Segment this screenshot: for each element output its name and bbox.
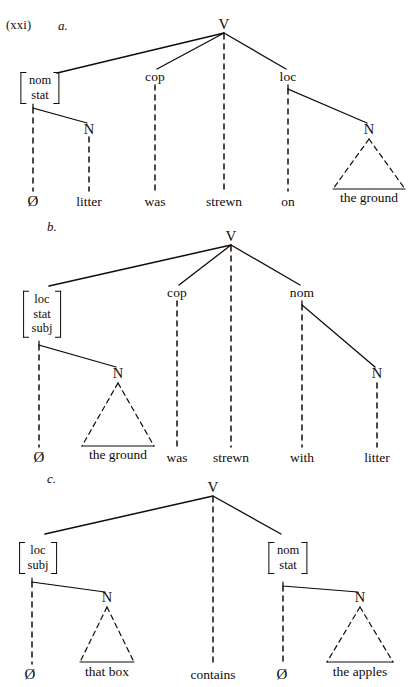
feature-item: nom	[277, 544, 299, 559]
tree-b-node-n-litter: N	[372, 366, 382, 381]
tree-edges-layer	[0, 0, 410, 687]
tree-a-node-n-ground: N	[364, 122, 374, 137]
bracket-right	[302, 542, 308, 574]
tree-c-terminal-the-apples: the apples	[333, 665, 387, 679]
feature-item: subj	[32, 321, 53, 336]
tree-c-terminal-that-box: that box	[85, 665, 129, 679]
bracket-right	[51, 542, 57, 574]
example-number: (xxi)	[6, 18, 31, 33]
feature-list: nom stat	[26, 72, 53, 104]
tree-a-node-loc: loc	[280, 70, 297, 84]
tree-b-node-n-ground: N	[113, 366, 123, 381]
tree-a-feature-matrix-nom-stat: nom stat	[20, 72, 59, 104]
feature-list: nom stat	[274, 542, 301, 574]
tree-a-root-v: V	[219, 17, 230, 32]
tree-b-terminal-with: with	[290, 451, 314, 465]
tree-c-feature-matrix-loc-subj: loc subj	[19, 542, 57, 574]
feature-item: stat	[32, 307, 53, 322]
tree-c-root-v: V	[208, 480, 219, 495]
tree-b-terminal-litter: litter	[364, 451, 390, 465]
tree-a-terminal-the-ground: the ground	[340, 191, 398, 205]
feature-item: stat	[277, 558, 299, 573]
tree-a-terminal-strewn: strewn	[206, 195, 242, 209]
feature-item: subj	[28, 558, 49, 573]
tree-b-terminal-was: was	[167, 451, 188, 465]
tree-c-edges	[32, 496, 393, 664]
tree-a-terminal-on: on	[281, 195, 295, 209]
tree-c-node-n-the-apples: N	[355, 590, 365, 605]
feature-item: loc	[32, 292, 53, 307]
feature-item: loc	[28, 544, 49, 559]
tree-c-terminal-contains: contains	[191, 668, 236, 682]
feature-item: nom	[29, 74, 51, 89]
tree-a-terminal-was: was	[145, 195, 166, 209]
tree-b-node-nom: nom	[290, 286, 314, 300]
tree-b-terminal-the-ground: the ground	[89, 448, 147, 462]
figure-page: (xxi) a. b. c.	[0, 0, 410, 687]
tree-label-c: c.	[47, 471, 56, 487]
tree-b-feature-matrix-loc-stat-subj: loc stat subj	[23, 291, 61, 338]
feature-list: loc stat subj	[29, 291, 55, 338]
tree-c-feature-matrix-nom-stat: nom stat	[268, 542, 307, 574]
tree-a-node-n-litter: N	[84, 122, 94, 137]
bracket-right	[54, 72, 60, 104]
tree-b-edges	[39, 245, 377, 447]
tree-a-terminal-zero: Ø	[28, 194, 39, 209]
tree-c-node-n-that-box: N	[102, 590, 112, 605]
tree-a-edges	[33, 33, 405, 191]
tree-c-terminal-zero-2: Ø	[277, 667, 288, 682]
tree-a-node-cop: cop	[145, 70, 165, 84]
feature-list: loc subj	[25, 542, 51, 574]
tree-b-terminal-zero: Ø	[34, 450, 45, 465]
bracket-right	[55, 291, 61, 338]
tree-c-terminal-zero-1: Ø	[25, 667, 36, 682]
tree-b-node-cop: cop	[167, 286, 187, 300]
tree-b-root-v: V	[226, 229, 237, 244]
tree-b-terminal-strewn: strewn	[213, 451, 249, 465]
tree-a-terminal-litter: litter	[76, 195, 102, 209]
tree-label-b: b.	[47, 219, 57, 235]
tree-label-a: a.	[58, 18, 68, 34]
feature-item: stat	[29, 88, 51, 103]
